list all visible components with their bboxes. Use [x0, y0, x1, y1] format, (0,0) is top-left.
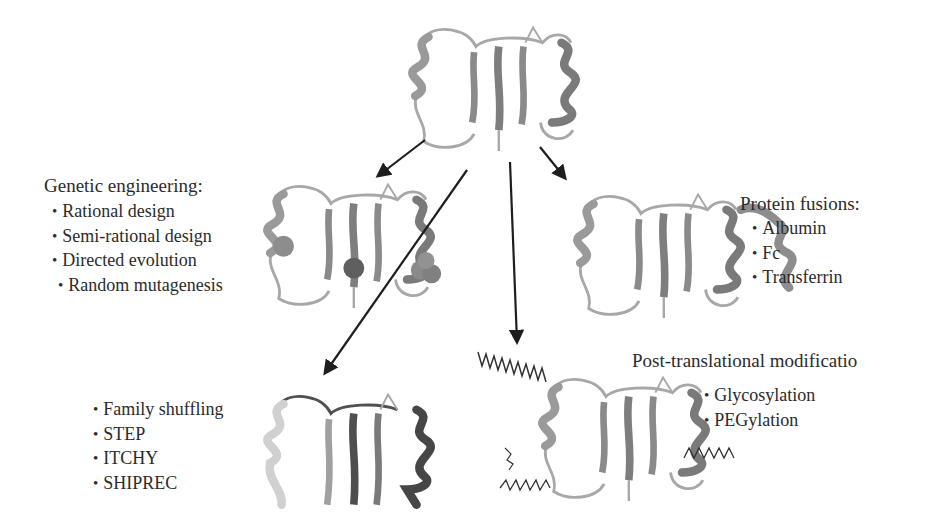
center-protein-structure: [412, 28, 575, 152]
method-itchy: ITCHY: [93, 447, 223, 472]
post-translational-block: Post-translational modificatio Glycosyla…: [632, 350, 931, 433]
shuffled-protein-structure: [267, 395, 430, 505]
fusion-fc: Fc: [752, 242, 860, 267]
ptm-glycosylation: Glycosylation: [704, 384, 931, 409]
fusion-transferrin: Transferrin: [752, 266, 860, 291]
method-directed-evolution: Directed evolution: [52, 249, 223, 274]
arrow-to-ptm: [510, 162, 517, 342]
genetic-engineering-block: Genetic engineering: Rational design Sem…: [44, 175, 223, 298]
arrow-to-genetic-engineering: [378, 140, 425, 176]
peg-chain-left-2: [505, 448, 513, 470]
method-rational-design: Rational design: [52, 200, 223, 225]
method-random-mutagenesis: Random mutagenesis: [52, 274, 223, 299]
peg-chain-left: [500, 480, 550, 490]
method-family-shuffling: Family shuffling: [93, 398, 223, 423]
protein-fusions-block: Protein fusions: Albumin Fc Transferrin: [740, 193, 860, 291]
arrow-to-fusion: [540, 147, 565, 178]
genetic-engineering-heading: Genetic engineering:: [44, 175, 223, 197]
fusion-albumin: Albumin: [752, 217, 860, 242]
recombination-block: Family shuffling STEP ITCHY SHIPREC: [93, 398, 223, 496]
ptm-pegylation: PEGylation: [704, 409, 931, 434]
method-step: STEP: [93, 423, 223, 448]
engineered-protein-structure: [267, 185, 441, 309]
method-shiprec: SHIPREC: [93, 472, 223, 497]
protein-fusions-heading: Protein fusions:: [740, 193, 860, 215]
method-semi-rational-design: Semi-rational design: [52, 225, 223, 250]
peg-chain-top: [478, 352, 546, 382]
post-translational-heading: Post-translational modificatio: [632, 350, 931, 372]
